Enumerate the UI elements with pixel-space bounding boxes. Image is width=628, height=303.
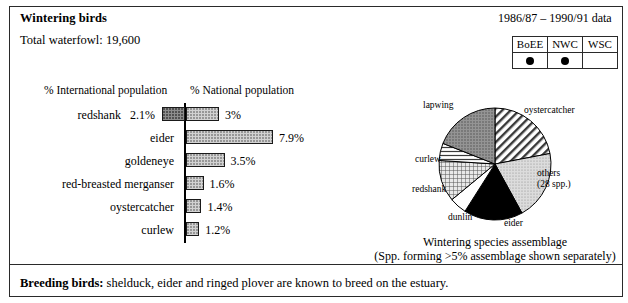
bar-row: oystercatcher1.4% bbox=[185, 197, 186, 217]
filled-dot-icon bbox=[561, 57, 569, 65]
bar-value-national-redshank: 3% bbox=[225, 108, 241, 123]
pie-chart: lapwing oystercatcher others (28 spp.) e… bbox=[437, 106, 553, 222]
bar-chart-left-header: % International population bbox=[44, 84, 167, 96]
bar-national-goldeneye bbox=[186, 153, 225, 167]
scheme-header-wsc: WSC bbox=[583, 37, 618, 53]
scheme-header-nwc: NWC bbox=[548, 37, 583, 53]
table-row-marks bbox=[513, 53, 618, 69]
pie-label-lapwing: lapwing bbox=[423, 100, 454, 111]
bar-row: curlew1.2% bbox=[185, 220, 186, 240]
scheme-header-boee: BoEE bbox=[513, 37, 548, 53]
bar-label-goldeneye: goldeneye bbox=[125, 154, 179, 169]
bar-value-national-goldeneye: 3.5% bbox=[231, 154, 256, 169]
pie-chart-svg bbox=[437, 106, 553, 222]
bar-row: red-breasted merganser1.6% bbox=[185, 174, 186, 194]
bar-row: eider7.9% bbox=[185, 128, 186, 148]
bar-value-national-eider: 7.9% bbox=[279, 131, 304, 146]
bar-national-eider bbox=[186, 130, 273, 144]
breeding-birds-note: Breeding birds: shelduck, eider and ring… bbox=[20, 276, 448, 291]
survey-scheme-table: BoEE NWC WSC bbox=[512, 36, 618, 69]
page-root: Wintering birds Total waterfowl: 19,600 … bbox=[0, 0, 628, 303]
pie-caption-line1: Wintering species assemblage bbox=[345, 235, 628, 249]
data-period-text: 1986/87 – 1990/91 data bbox=[498, 11, 612, 26]
bar-label-oystercatcher: oystercatcher bbox=[110, 200, 179, 215]
bar-national-red-breasted merganser bbox=[186, 176, 204, 190]
bar-label-red-breasted-merganser: red-breasted merganser bbox=[62, 177, 179, 192]
total-waterfowl-text: Total waterfowl: 19,600 bbox=[20, 33, 140, 48]
pie-label-eider: eider bbox=[504, 218, 523, 229]
pie-label-others-line2: (28 spp.) bbox=[537, 179, 571, 190]
bar-national-oystercatcher bbox=[186, 199, 201, 213]
scheme-mark-nwc bbox=[548, 53, 583, 69]
breeding-birds-label: Breeding birds: bbox=[20, 276, 103, 290]
pie-label-oystercatcher: oystercatcher bbox=[524, 105, 575, 116]
bar-label-redshank: redshank bbox=[78, 108, 126, 123]
page-title: Wintering birds bbox=[20, 11, 107, 26]
pie-caption-line2: (Spp. forming >5% assemblage shown separ… bbox=[345, 249, 628, 263]
bar-label-curlew: curlew bbox=[141, 223, 179, 238]
bar-label-eider: eider bbox=[150, 131, 179, 146]
bar-national-redshank bbox=[186, 107, 219, 121]
pie-label-dunlin: dunlin bbox=[448, 212, 472, 223]
section-divider bbox=[9, 264, 623, 265]
bar-row: 2.1%redshank3% bbox=[185, 105, 186, 125]
bar-row: goldeneye3.5% bbox=[185, 151, 186, 171]
scheme-mark-boee bbox=[513, 53, 548, 69]
bar-value-national-curlew: 1.2% bbox=[205, 223, 230, 238]
bar-value-national-oystercatcher: 1.4% bbox=[207, 200, 232, 215]
bar-value-international-redshank: 2.1% bbox=[130, 108, 155, 123]
bar-value-national-red-breasted merganser: 1.6% bbox=[210, 177, 235, 192]
breeding-birds-text: shelduck, eider and ringed plover are kn… bbox=[103, 276, 448, 290]
bar-national-curlew bbox=[186, 222, 199, 236]
pie-label-redshank: redshank bbox=[412, 184, 446, 195]
filled-dot-icon bbox=[526, 57, 534, 65]
bar-international-redshank bbox=[162, 107, 185, 121]
table-row-headers: BoEE NWC WSC bbox=[513, 37, 618, 53]
pie-label-curlew: curlew bbox=[415, 154, 441, 165]
pie-label-others-line1: others bbox=[537, 168, 560, 179]
scheme-mark-wsc bbox=[583, 53, 618, 69]
bar-chart-right-header: % National population bbox=[190, 84, 294, 96]
